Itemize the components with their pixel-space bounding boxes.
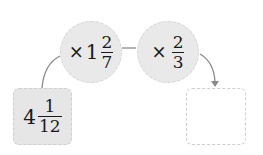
step-2-fraction: 2 3 [172,34,185,71]
step-1-circle: × 1 2 7 [60,21,122,83]
step-2-numerator: 2 [172,34,185,52]
step-2-circle: × 2 3 [137,21,199,83]
step-1-whole: 1 [86,42,99,62]
start-whole: 4 [23,107,36,127]
multiply-operator: × [69,43,84,61]
step2-to-result-arrow [200,54,215,82]
multiply-operator: × [152,43,167,61]
start-numerator: 1 [43,98,56,116]
arrowhead-icon [211,81,219,87]
start-to-step1-connector [42,56,60,88]
step-2-denominator: 3 [172,52,185,71]
result-answer-box[interactable] [186,88,246,145]
step-1-denominator: 7 [101,52,114,71]
start-fraction: 1 12 [38,98,62,135]
step-1-numerator: 2 [101,34,114,52]
start-denominator: 12 [38,116,62,135]
start-value-box: 4 1 12 [13,88,72,145]
step-1-fraction: 2 7 [101,34,114,71]
